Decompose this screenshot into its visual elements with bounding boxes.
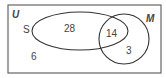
s-only-count: 28 — [64, 23, 76, 34]
set-s-label: S — [23, 24, 30, 35]
universe-rectangle — [8, 5, 161, 73]
set-m-label: M — [146, 13, 155, 24]
venn-diagram: U S M 28 14 3 6 — [0, 0, 166, 78]
outside-count: 6 — [31, 51, 37, 62]
intersection-count: 14 — [106, 28, 118, 39]
m-only-count: 3 — [126, 45, 132, 56]
universe-label: U — [12, 9, 20, 20]
